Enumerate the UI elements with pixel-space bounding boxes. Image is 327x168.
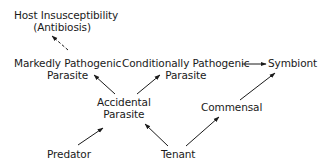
edge-predator-to-accidental — [78, 128, 103, 145]
node-label-line2: Parasite — [14, 69, 121, 81]
node-markedly-pathogenic-parasite: Markedly Pathogenic Parasite — [14, 57, 121, 81]
node-accidental-parasite: Accidental Parasite — [97, 96, 151, 120]
edge-tenant-to-commensal — [186, 117, 219, 146]
node-label-line2: (Antibiosis) — [6, 21, 118, 33]
node-label-line1: Predator — [47, 148, 91, 160]
node-commensal: Commensal — [201, 101, 262, 113]
node-symbiont: Symbiont — [268, 57, 317, 69]
edge-markedly-to-host — [52, 36, 68, 50]
node-label-line1: Commensal — [201, 101, 262, 113]
node-host-insusceptibility: Host Insusceptibility (Antibiosis) — [14, 9, 118, 33]
node-label-line2: Parasite — [97, 108, 151, 120]
node-label-line1: Tenant — [161, 148, 195, 160]
node-label-line1: Host Insusceptibility — [14, 9, 118, 21]
node-label-line2: Parasite — [122, 69, 250, 81]
node-conditionally-pathogenic-parasite: Conditionally Pathogenic Parasite — [122, 57, 250, 81]
node-tenant: Tenant — [161, 148, 195, 160]
edge-tenant-to-accidental — [145, 124, 168, 146]
node-label-line1: Conditionally Pathogenic — [122, 57, 250, 69]
node-predator: Predator — [47, 148, 91, 160]
node-label-line1: Markedly Pathogenic — [14, 57, 121, 69]
node-label-line1: Symbiont — [268, 57, 317, 69]
node-label-line1: Accidental — [97, 96, 151, 108]
